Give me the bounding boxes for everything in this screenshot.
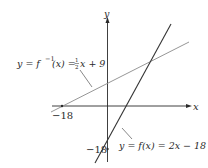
svg-text:x + 9: x + 9 bbox=[80, 58, 105, 69]
f-inverse-label: y = f −1 (x) = 1 2 x + 9 bbox=[16, 55, 105, 70]
y-tick-label: −18 bbox=[86, 144, 107, 155]
fraction-denominator: 2 bbox=[75, 64, 79, 70]
svg-text:(x) =: (x) = bbox=[52, 58, 76, 69]
x-axis-label: x bbox=[193, 101, 199, 112]
y-axis-label: y bbox=[103, 8, 110, 19]
svg-text:y = f: y = f bbox=[16, 58, 41, 69]
f-inverse-line bbox=[51, 42, 189, 112]
x-tick-label: −18 bbox=[52, 110, 73, 121]
inverse-function-graph: x y −18 −18 y = f −1 (x) = 1 2 x + 9 y =… bbox=[0, 0, 208, 168]
x-axis-arrow-icon bbox=[186, 104, 192, 108]
f-inverse-leader bbox=[80, 70, 92, 87]
f-label: y = f(x) = 2x − 18 bbox=[118, 140, 206, 151]
f-leader bbox=[122, 128, 132, 139]
x-intercept-point bbox=[61, 105, 63, 107]
fraction-numerator: 1 bbox=[75, 57, 79, 63]
